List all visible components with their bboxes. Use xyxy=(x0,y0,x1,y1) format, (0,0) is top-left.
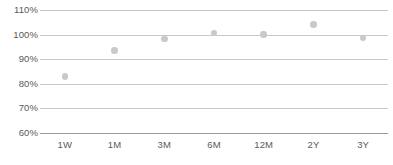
y-axis-tick-label: 60% xyxy=(2,128,38,138)
x-axis-tick-label: 1M xyxy=(108,140,121,150)
y-axis-tick-label: 100% xyxy=(2,30,38,40)
gridline xyxy=(40,133,388,134)
data-point xyxy=(360,35,367,42)
data-point xyxy=(260,31,267,38)
x-axis-tick-label: 1W xyxy=(58,140,72,150)
gridline xyxy=(40,59,388,60)
x-axis-tick-label: 12M xyxy=(254,140,273,150)
data-point xyxy=(310,21,317,28)
gridline xyxy=(40,84,388,85)
data-point xyxy=(161,36,168,43)
gridline xyxy=(40,108,388,109)
data-point xyxy=(111,47,118,54)
x-axis-tick-label: 6M xyxy=(207,140,220,150)
y-axis-tick-label: 110% xyxy=(2,5,38,15)
y-axis-tick-label: 90% xyxy=(2,54,38,64)
plot-area xyxy=(40,10,388,133)
x-axis-tick-label: 3M xyxy=(158,140,171,150)
gridline xyxy=(40,10,388,11)
scatter-chart: 110%100%90%80%70%60% 1W1M3M6M12M2Y3Y xyxy=(0,0,393,165)
data-point xyxy=(62,73,69,80)
y-axis-tick-label: 70% xyxy=(2,103,38,113)
x-axis-tick-label: 2Y xyxy=(308,140,320,150)
y-axis-tick-label: 80% xyxy=(2,79,38,89)
x-axis-tick-label: 3Y xyxy=(357,140,369,150)
